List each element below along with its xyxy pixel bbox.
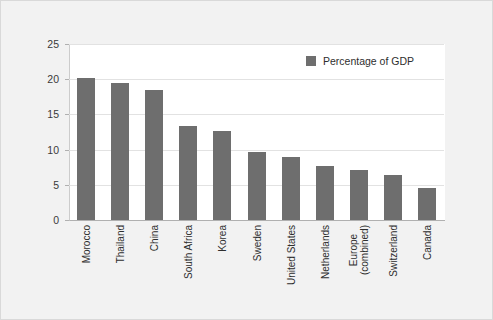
bar[interactable] <box>350 170 368 220</box>
x-axis-tick-label: Korea <box>217 225 228 252</box>
bar-slot <box>137 44 171 220</box>
x-axis-tick-label: United States <box>285 225 296 285</box>
bar-slot <box>239 44 273 220</box>
x-axis-tick-label: South Africa <box>183 225 194 279</box>
x-axis-tick: United States <box>274 223 308 315</box>
bar-slot <box>376 44 410 220</box>
x-axis-tick: Canada <box>410 223 444 315</box>
bar[interactable] <box>418 188 436 220</box>
bar-slot <box>274 44 308 220</box>
x-axis-tick: Sweden <box>239 223 273 315</box>
x-axis-tick-label-line: Thailand <box>115 225 126 263</box>
bar[interactable] <box>282 157 300 220</box>
x-axis-tick-label-line: Europe <box>348 234 359 266</box>
bar[interactable] <box>213 131 231 220</box>
bar[interactable] <box>384 175 402 220</box>
y-axis-tick-label: 20 <box>13 74 59 85</box>
y-axis-tick-label: 15 <box>13 109 59 120</box>
legend-label: Percentage of GDP <box>323 56 414 67</box>
x-axis-tick-label: Canada <box>421 225 432 260</box>
x-axis-tick-label-line: Morocco <box>81 225 92 263</box>
bar[interactable] <box>316 166 334 220</box>
x-axis-tick-label-line: China <box>149 225 160 251</box>
bar[interactable] <box>77 78 95 220</box>
x-axis-tick-label-line: Sweden <box>251 225 262 261</box>
bar-slot <box>205 44 239 220</box>
x-axis-tick-label-line: South Africa <box>183 225 194 279</box>
bar-slot <box>308 44 342 220</box>
x-axis-tick-label: Sweden <box>251 225 262 261</box>
y-axis-tick-label: 0 <box>13 215 59 226</box>
x-axis-tick-label: Europe(combined) <box>348 225 370 275</box>
y-axis-tick-label: 25 <box>13 39 59 50</box>
legend-swatch-icon <box>306 56 316 66</box>
bar-slot <box>103 44 137 220</box>
y-axis-tick-label: 10 <box>13 144 59 155</box>
x-axis-labels: MoroccoThailandChinaSouth AfricaKoreaSwe… <box>69 223 444 315</box>
legend: Percentage of GDP <box>306 56 414 67</box>
bar-series <box>69 44 444 220</box>
bar[interactable] <box>179 126 197 220</box>
chart-figure: 0510152025 MoroccoThailandChinaSouth Afr… <box>0 0 493 320</box>
x-axis-tick: Thailand <box>103 223 137 315</box>
bar[interactable] <box>145 90 163 220</box>
x-axis-tick-label: Thailand <box>115 225 126 263</box>
x-axis-tick-label-line: (combined) <box>359 225 370 275</box>
x-axis-tick: Korea <box>205 223 239 315</box>
bar[interactable] <box>111 83 129 220</box>
bar-slot <box>342 44 376 220</box>
y-axis-tick-mark <box>65 220 69 221</box>
x-axis-tick-label-line: Netherlands <box>319 225 330 279</box>
x-axis-tick: South Africa <box>171 223 205 315</box>
x-axis-tick: Morocco <box>69 223 103 315</box>
x-axis-tick-label: Netherlands <box>319 225 330 279</box>
x-axis-tick-label-line: Canada <box>421 225 432 260</box>
x-axis-tick-label-line: Switzerland <box>387 225 398 277</box>
x-axis-tick-label-line: Korea <box>217 225 228 252</box>
bar-slot <box>69 44 103 220</box>
bar-slot <box>171 44 205 220</box>
x-axis-tick: China <box>137 223 171 315</box>
x-axis-tick-label-line: United States <box>285 225 296 285</box>
bar[interactable] <box>248 152 266 220</box>
x-axis-tick: Netherlands <box>308 223 342 315</box>
x-axis-tick-label: Morocco <box>81 225 92 263</box>
bar-slot <box>410 44 444 220</box>
x-axis-tick: Switzerland <box>376 223 410 315</box>
x-axis-tick-label: Switzerland <box>387 225 398 277</box>
x-axis-tick: Europe(combined) <box>342 223 376 315</box>
y-axis-tick-label: 5 <box>13 180 59 191</box>
x-axis-tick-label: China <box>149 225 160 251</box>
